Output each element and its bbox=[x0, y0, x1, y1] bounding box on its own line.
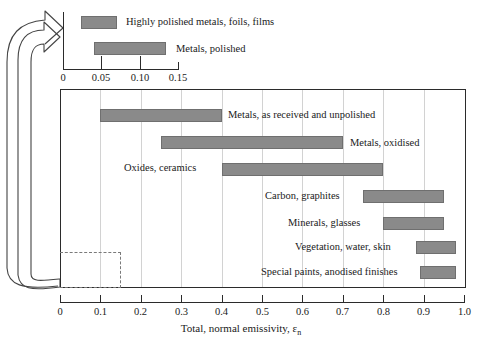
main-ticklabel-0.4: 0.4 bbox=[209, 306, 234, 317]
inset-ticklabel-0.10: 0.10 bbox=[125, 72, 155, 83]
main-tick-0.7 bbox=[343, 295, 344, 303]
main-ticklabel-0.6: 0.6 bbox=[290, 306, 315, 317]
inset-bar-metals-polished bbox=[94, 42, 167, 55]
main-tick-1.0 bbox=[464, 295, 465, 303]
main-tick-0.3 bbox=[181, 295, 182, 303]
inset-tick-0.15 bbox=[178, 62, 179, 70]
bar-metals-as-received bbox=[100, 109, 221, 122]
inset-tick-0.05 bbox=[101, 56, 102, 70]
bar-label-minerals-glasses: Minerals, glasses bbox=[288, 217, 360, 229]
main-tick-0.9 bbox=[424, 295, 425, 303]
main-ticklabel-0.3: 0.3 bbox=[169, 306, 194, 317]
main-ticklabel-0.1: 0.1 bbox=[88, 306, 113, 317]
bar-label-metals-as-received: Metals, as received and unpolished bbox=[228, 109, 375, 121]
bar-minerals-glasses bbox=[383, 217, 444, 230]
x-axis-title-text: Total, normal emissivity, εn bbox=[181, 322, 301, 334]
inset-ticklabel-0.05: 0.05 bbox=[86, 72, 116, 83]
inset-tick-0.10 bbox=[140, 56, 141, 70]
main-ticklabel-1.0: 1.0 bbox=[452, 306, 477, 317]
bar-oxides-ceramics bbox=[222, 163, 384, 176]
main-ticklabel-0.5: 0.5 bbox=[250, 306, 275, 317]
main-tick-0 bbox=[60, 295, 61, 303]
emissivity-chart: Highly polished metals, foils, films Met… bbox=[0, 0, 482, 344]
main-tick-0.2 bbox=[141, 295, 142, 303]
bar-carbon-graphites bbox=[363, 190, 444, 203]
inset-ticklabel-0: 0 bbox=[53, 72, 73, 83]
inset-bar-label-metals-polished: Metals, polished bbox=[176, 43, 245, 55]
bar-label-metals-oxidised: Metals, oxidised bbox=[350, 137, 419, 149]
gridline-0.4 bbox=[222, 90, 223, 287]
gridline-0.9 bbox=[424, 90, 425, 287]
inset-ticklabel-0.15: 0.15 bbox=[163, 72, 193, 83]
inset-tick-0 bbox=[63, 62, 64, 70]
main-tick-0.5 bbox=[262, 295, 263, 303]
bar-label-carbon-graphites: Carbon, graphites bbox=[265, 190, 340, 202]
main-tick-0.1 bbox=[100, 295, 101, 303]
main-ticklabel-0.7: 0.7 bbox=[330, 306, 355, 317]
bar-metals-oxidised bbox=[161, 136, 343, 149]
main-ticklabel-0.2: 0.2 bbox=[128, 306, 153, 317]
main-tick-0.6 bbox=[302, 295, 303, 303]
main-panel: Metals, as received and unpolished Metal… bbox=[0, 86, 482, 344]
bar-vegetation-water-skin bbox=[416, 241, 456, 254]
inset-bar-label-highly-polished-metals: Highly polished metals, foils, films bbox=[126, 16, 274, 28]
bar-special-paints bbox=[420, 266, 456, 279]
main-ticklabel-0.8: 0.8 bbox=[371, 306, 396, 317]
gridline-0.8 bbox=[383, 90, 384, 287]
main-ticklabel-0: 0 bbox=[50, 306, 70, 317]
inset-panel: Highly polished metals, foils, films Met… bbox=[0, 0, 482, 86]
inset-bar-highly-polished-metals bbox=[81, 16, 117, 29]
bar-label-vegetation-water-skin: Vegetation, water, skin bbox=[295, 241, 391, 253]
bar-label-special-paints: Special paints, anodised finishes bbox=[261, 266, 397, 278]
callout-dashed-box bbox=[60, 252, 121, 288]
bar-label-oxides-ceramics: Oxides, ceramics bbox=[124, 162, 196, 174]
inset-x-axis-line bbox=[63, 69, 179, 70]
main-ticklabel-0.9: 0.9 bbox=[411, 306, 436, 317]
main-tick-0.4 bbox=[222, 295, 223, 303]
main-tick-0.8 bbox=[383, 295, 384, 303]
x-axis-title: Total, normal emissivity, εn bbox=[0, 322, 482, 337]
